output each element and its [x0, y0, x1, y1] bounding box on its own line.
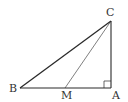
label-A: A	[111, 89, 121, 102]
segment-BC	[20, 21, 111, 88]
label-C: C	[106, 6, 114, 19]
label-B: B	[9, 82, 17, 95]
triangle-diagram: C B M A	[0, 0, 128, 102]
label-M: M	[61, 89, 72, 102]
right-angle-marker	[104, 81, 111, 88]
segment-CM	[65, 21, 111, 88]
